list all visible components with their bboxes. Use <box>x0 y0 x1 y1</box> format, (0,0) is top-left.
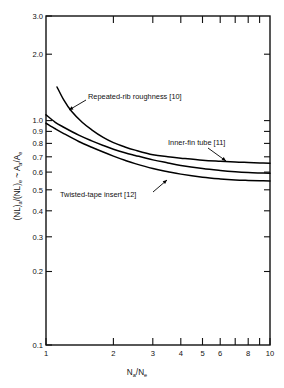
x-tick-label: 3 <box>151 349 155 358</box>
x-tick-label: 6 <box>218 349 222 358</box>
y-tick-label: 0.5 <box>32 186 43 195</box>
y-axis-title-sub-e2: e <box>17 152 23 155</box>
x-axis-title: Na/Ne <box>127 368 147 378</box>
y-tick-labels: 3.0 2.0 1.0 0.9 0.8 0.7 0.6 0.5 0.4 0.3 … <box>32 12 43 350</box>
y-tick-label: 0.4 <box>32 207 43 216</box>
y-tick-label: 0.8 <box>32 139 43 148</box>
y-axis-title-main: (NL) <box>13 204 22 220</box>
annotation-label-2: Inner-fin tube [11] <box>168 138 225 147</box>
x-tick-label: 10 <box>266 349 274 358</box>
y-tick-label: 0.3 <box>32 233 43 242</box>
y-tick-label: 0.1 <box>32 341 43 350</box>
y-tick-label: 0.2 <box>32 267 43 276</box>
y-tick-label: 0.7 <box>32 153 43 162</box>
y-axis-ticks <box>46 16 52 345</box>
x-tick-label: 5 <box>200 349 204 358</box>
y-tick-label: 3.0 <box>32 12 43 21</box>
x-axis-title-slash: /N <box>136 368 144 377</box>
y-tick-label: 2.0 <box>32 50 43 59</box>
y-tick-label: 1.0 <box>32 116 43 125</box>
x-axis-ticks-top <box>113 16 259 23</box>
x-tick-label: 1 <box>44 349 48 358</box>
data-curves <box>46 87 270 181</box>
annotation-label-1: Repeated-rib roughness [10] <box>88 92 182 101</box>
svg-text:(NL)a/(NL)e ~ Aa/Ae: (NL)a/(NL)e ~ Aa/Ae <box>13 152 23 221</box>
chart-svg: 3.0 2.0 1.0 0.9 0.8 0.7 0.6 0.5 0.4 0.3 … <box>0 0 284 388</box>
x-tick-label: 8 <box>246 349 250 358</box>
y-axis-title-tilde: ~ A <box>13 165 22 180</box>
y-tick-label: 0.9 <box>32 127 43 136</box>
x-tick-labels: 1 2 3 4 5 6 8 10 <box>44 349 274 358</box>
annotation-layer: Repeated-rib roughness [10]Inner-fin tub… <box>60 92 226 199</box>
x-tick-label: 2 <box>111 349 115 358</box>
y-axis-title: (NL)a/(NL)e ~ Aa/Ae <box>13 152 23 221</box>
x-axis-title-sub-e: e <box>144 372 147 378</box>
series-curve-2 <box>46 115 270 173</box>
svg-text:Na/Ne: Na/Ne <box>127 368 147 378</box>
annotation-arrowhead-2 <box>222 157 226 161</box>
annotation-label-3: Twisted-tape insert [12] <box>60 190 136 199</box>
x-axis-ticks-bottom <box>46 338 270 345</box>
y-tick-label: 0.6 <box>32 168 43 177</box>
y-axis-title-mid: /(NL) <box>13 183 22 201</box>
x-tick-label: 4 <box>179 349 183 358</box>
chart-page: 3.0 2.0 1.0 0.9 0.8 0.7 0.6 0.5 0.4 0.3 … <box>0 0 284 388</box>
